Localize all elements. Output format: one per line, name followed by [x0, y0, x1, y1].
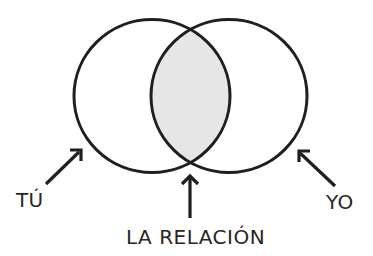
center-arrow-icon: [182, 176, 198, 218]
label-relationship: LA RELACIÓN: [126, 227, 265, 247]
label-you: TÚ: [16, 190, 43, 210]
venn-diagram: [0, 0, 373, 256]
left-arrow-icon: [46, 150, 81, 184]
right-arrow-icon: [299, 151, 335, 186]
label-me: YO: [326, 192, 353, 212]
